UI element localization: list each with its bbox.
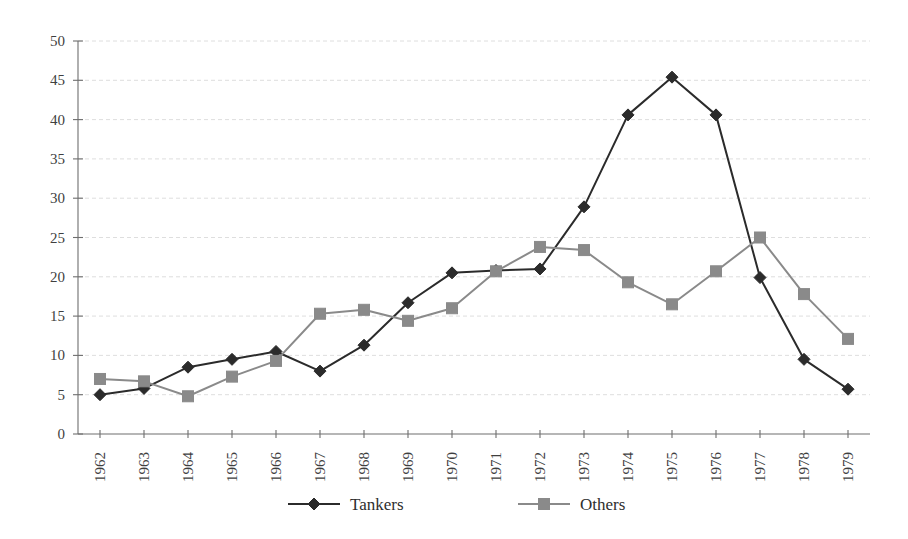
chart-container: 05101520253035404550 1962196319641965196…	[0, 0, 908, 539]
square-marker-icon	[271, 355, 282, 366]
y-axis-tick-label: 50	[50, 33, 65, 49]
square-marker-icon	[711, 266, 722, 277]
square-marker-icon	[315, 308, 326, 319]
legend-item-tankers[interactable]: Tankers	[288, 495, 404, 514]
y-axis-tick-label: 25	[50, 230, 65, 246]
square-marker-icon	[535, 241, 546, 252]
series-others	[95, 232, 854, 402]
x-axis-tick-label: 1976	[708, 452, 724, 483]
x-axis-tick-label: 1972	[532, 452, 548, 482]
x-axis-tick-label: 1969	[400, 452, 416, 482]
y-axis-tick-label: 0	[58, 426, 66, 442]
y-axis-tick-label: 15	[50, 308, 65, 324]
y-axis-tick-label: 40	[50, 112, 65, 128]
legend-label: Tankers	[350, 495, 404, 514]
diamond-marker-icon	[314, 365, 326, 377]
line-chart: 05101520253035404550 1962196319641965196…	[0, 0, 908, 539]
y-axis-tick-label: 45	[50, 72, 65, 88]
square-marker-icon	[539, 499, 550, 510]
square-marker-icon	[491, 266, 502, 277]
diamond-marker-icon	[578, 201, 590, 213]
square-marker-icon	[227, 371, 238, 382]
square-marker-icon	[403, 315, 414, 326]
series-tankers	[94, 71, 854, 401]
x-axis-tick-label: 1964	[180, 452, 196, 483]
legend-item-others[interactable]: Others	[518, 495, 625, 514]
x-axis-tick-label: 1977	[752, 452, 768, 483]
x-axis-tick-label: 1967	[312, 452, 328, 483]
x-axis-tick-label: 1965	[224, 452, 240, 482]
square-marker-icon	[359, 304, 370, 315]
y-axis-tick-label: 35	[50, 151, 65, 167]
x-axis-tick-label: 1975	[664, 452, 680, 482]
square-marker-icon	[755, 232, 766, 243]
series-line	[100, 238, 848, 397]
diamond-marker-icon	[754, 272, 766, 284]
y-axis-tick-label: 10	[50, 347, 65, 363]
y-axis-tick-label: 20	[50, 269, 65, 285]
x-axis-tick-label: 1978	[796, 452, 812, 482]
data-series	[94, 71, 854, 402]
y-axis-tick-label: 30	[50, 190, 65, 206]
diamond-marker-icon	[94, 389, 106, 401]
x-axis-tick-labels: 1962196319641965196619671968196919701971…	[92, 430, 856, 482]
x-axis-tick-label: 1962	[92, 452, 108, 482]
square-marker-icon	[843, 333, 854, 344]
x-axis-tick-label: 1966	[268, 452, 284, 483]
legend-label: Others	[580, 495, 625, 514]
square-marker-icon	[447, 303, 458, 314]
diamond-marker-icon	[182, 361, 194, 373]
x-axis-tick-label: 1971	[488, 452, 504, 482]
square-marker-icon	[667, 299, 678, 310]
diamond-marker-icon	[308, 498, 320, 510]
diamond-marker-icon	[842, 383, 854, 395]
grid-lines	[78, 41, 870, 395]
y-axis-tick-label: 5	[58, 387, 66, 403]
x-axis-tick-label: 1968	[356, 452, 372, 482]
x-axis-tick-label: 1973	[576, 452, 592, 482]
square-marker-icon	[579, 245, 590, 256]
square-marker-icon	[623, 277, 634, 288]
square-marker-icon	[799, 289, 810, 300]
x-axis-tick-label: 1963	[136, 452, 152, 482]
square-marker-icon	[95, 373, 106, 384]
x-axis-tick-label: 1974	[620, 452, 636, 483]
square-marker-icon	[183, 391, 194, 402]
x-axis-tick-label: 1970	[444, 452, 460, 482]
chart-legend: TankersOthers	[288, 495, 625, 514]
series-line	[100, 77, 848, 395]
square-marker-icon	[139, 376, 150, 387]
x-axis-tick-label: 1979	[840, 452, 856, 482]
